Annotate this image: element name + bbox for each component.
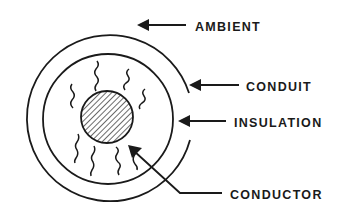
- cable-cross-section-diagram: AMBIENT CONDUIT INSULATION CONDUCTOR: [0, 0, 360, 222]
- label-conductor: CONDUCTOR: [230, 188, 323, 202]
- conductor-core: [81, 91, 133, 143]
- label-insulation: INSULATION: [234, 116, 322, 130]
- label-conduit: CONDUIT: [246, 80, 312, 94]
- ambient-arrow: [137, 19, 186, 31]
- label-ambient: AMBIENT: [195, 20, 261, 34]
- insulation-arrow: [178, 115, 226, 127]
- conduit-arrow: [189, 79, 239, 91]
